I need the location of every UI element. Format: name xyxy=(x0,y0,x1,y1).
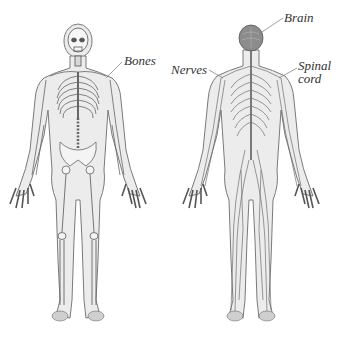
spinal-cord-leader-line xyxy=(279,68,297,78)
nervous-system-illustration xyxy=(173,0,346,337)
brain-label: Brain xyxy=(284,12,314,24)
nerves-label: Nerves xyxy=(171,64,207,76)
skeleton-illustration xyxy=(0,0,173,337)
cord-label: cord xyxy=(298,73,321,85)
brain-leader-line xyxy=(259,18,283,34)
nervous-system-figure xyxy=(173,0,346,337)
skeleton-figure xyxy=(0,0,173,337)
bones-label: Bones xyxy=(124,55,156,67)
bones-leader-line xyxy=(106,62,122,78)
